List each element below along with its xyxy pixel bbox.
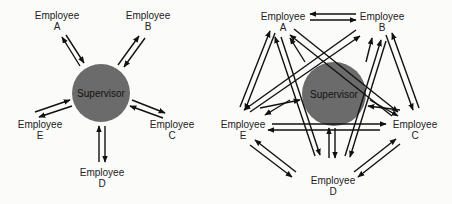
employee-c-right: EmployeeC xyxy=(393,119,437,141)
employee-a-left: EmployeeA xyxy=(35,10,79,32)
supervisor-label-left: Supervisor xyxy=(77,88,125,99)
employee-c-left: EmployeeC xyxy=(150,119,194,141)
employee-d-left: EmployeeD xyxy=(80,167,124,189)
employee-a-right: EmployeeA xyxy=(261,11,305,33)
employee-e-right: EmployeeE xyxy=(221,119,265,141)
employee-e-left: EmployeeE xyxy=(18,119,62,141)
supervisor-label-right: Supervisor xyxy=(310,89,358,100)
employee-b-left: EmployeeB xyxy=(126,10,170,32)
left-diagram xyxy=(35,35,165,162)
employee-b-right: EmployeeB xyxy=(360,11,404,33)
employee-d-right: EmployeeD xyxy=(311,175,355,197)
